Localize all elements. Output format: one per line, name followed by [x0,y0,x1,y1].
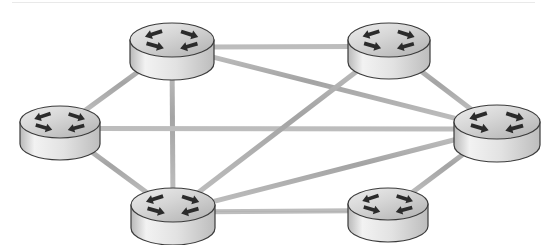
link-bottom-left-to-bottom-right[interactable] [209,211,354,212]
router-bottom-left[interactable] [131,188,215,245]
router-top-left[interactable] [130,23,214,80]
router-top [130,23,214,57]
network-topology-svg [0,0,547,245]
router-top [348,23,430,57]
router-top [454,105,540,139]
router-top [131,188,215,222]
router-left[interactable] [20,106,100,160]
router-top [20,106,100,138]
router-bottom-right[interactable] [348,188,428,242]
router-right[interactable] [454,105,540,162]
link-bottom-left-to-right[interactable] [206,138,463,204]
network-diagram-canvas [0,0,547,245]
router-top-right[interactable] [348,23,430,79]
router-top [348,188,428,220]
